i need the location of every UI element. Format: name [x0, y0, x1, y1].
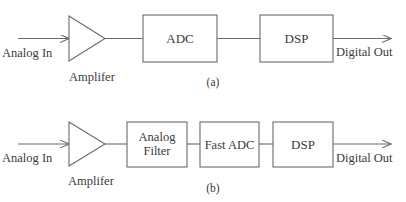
analog-filter-label-line1: Analog — [139, 130, 177, 144]
panel-a: Analog In Amplifer ADC DSP Digital Out (… — [2, 15, 393, 89]
analog-in-label: Analog In — [2, 151, 53, 165]
amplifier-label: Amplifer — [69, 70, 116, 84]
caption-a: (a) — [207, 76, 220, 89]
amplifier-triangle-icon — [69, 122, 105, 166]
analog-filter-label-line2: Filter — [143, 144, 171, 158]
panel-b: Analog In Amplifer Analog Filter Fast AD… — [2, 122, 393, 195]
digital-out-label: Digital Out — [336, 151, 393, 165]
amplifier-triangle-icon — [69, 16, 105, 61]
dsp-block-label: DSP — [285, 31, 309, 46]
caption-b: (b) — [206, 182, 220, 195]
block-diagram: Analog In Amplifer ADC DSP Digital Out (… — [0, 0, 406, 202]
amplifier-label: Amplifer — [68, 174, 115, 188]
fast-adc-block-label: Fast ADC — [205, 138, 255, 152]
digital-out-label: Digital Out — [336, 45, 393, 59]
analog-in-label: Analog In — [2, 46, 53, 60]
adc-block-label: ADC — [166, 31, 193, 46]
dsp-block-label: DSP — [291, 137, 315, 152]
